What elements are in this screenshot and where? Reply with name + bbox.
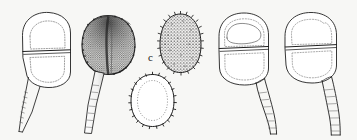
illustration-plate: c bbox=[0, 0, 357, 140]
plate-drawing bbox=[0, 0, 357, 140]
figure-label-c: c bbox=[148, 52, 153, 63]
